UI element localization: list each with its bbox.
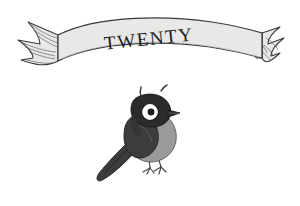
chapter-opener-page: TWENTY bbox=[0, 0, 300, 206]
bird-beak-line bbox=[168, 113, 179, 114]
startled-bird-illustration bbox=[0, 0, 300, 206]
bird-eye bbox=[142, 104, 159, 121]
